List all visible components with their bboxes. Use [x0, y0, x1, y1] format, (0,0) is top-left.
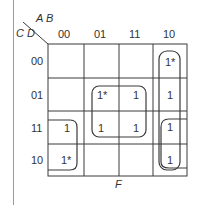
cell-r11-c11: 1 [133, 122, 139, 134]
row-header-00: 00 [31, 55, 43, 67]
cell-r11-c10: 1 [167, 121, 173, 133]
cell-r11-c01: 1 [98, 122, 104, 134]
row-header-10: 10 [31, 154, 43, 166]
cell-r00-c10: 1* [165, 56, 175, 68]
cell-r01-c11: 1 [133, 89, 139, 101]
row-header-11: 11 [31, 122, 42, 134]
col-var-label: A B [36, 12, 53, 24]
col-header-00: 00 [58, 28, 70, 40]
col-header-11: 11 [129, 28, 140, 40]
row-header-01: 01 [31, 89, 43, 101]
col-header-01: 01 [94, 28, 106, 40]
cell-r01-c10: 1 [167, 89, 173, 101]
cell-r11-c00: 1 [64, 122, 70, 134]
row-var-label: C D [16, 27, 35, 39]
cell-r10-c00: 1* [61, 154, 71, 166]
cell-r10-c10: 1 [167, 154, 173, 166]
function-label: F [115, 178, 122, 190]
col-header-10: 10 [163, 28, 175, 40]
cell-r01-c01: 1* [97, 89, 107, 101]
